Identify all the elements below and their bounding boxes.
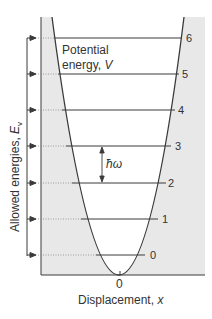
level-label-6: 6 [186,32,192,44]
level-label-1: 1 [162,213,168,225]
y-axis-label: Allowed energies, Ev [8,122,24,232]
curve-label: Potential [62,43,109,57]
x-axis-label: Displacement, x [78,293,164,307]
energy-level-diagram: ħω 6 5 4 3 2 1 0 Potential energy, V 0 D… [0,0,212,319]
level-label-5: 5 [182,68,188,80]
arrow-icon [27,36,36,41]
arrow-icon [27,72,36,77]
spacing-label: ħω [106,157,122,171]
level-label-2: 2 [168,177,174,189]
level-arrows [27,36,36,258]
level-label-3: 3 [175,140,181,152]
arrow-icon [27,108,36,113]
curve-label-line2: energy, V [62,58,113,72]
arrow-icon [27,253,36,258]
arrow-icon [27,181,36,186]
level-label-4: 4 [178,104,184,116]
origin-label: 0 [116,277,123,291]
arrow-icon [27,144,36,149]
arrow-icon [27,217,36,222]
level-label-0: 0 [150,249,156,261]
